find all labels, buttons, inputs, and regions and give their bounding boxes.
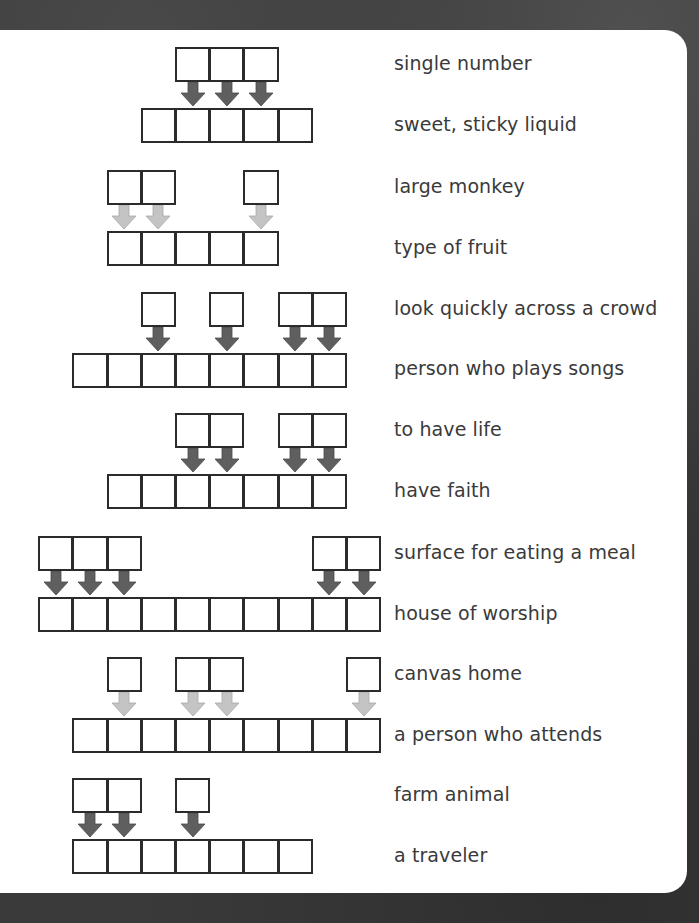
- short-word-letter-box[interactable]: [312, 292, 347, 327]
- short-word-letter-box[interactable]: [141, 292, 176, 327]
- long-word-clue: type of fruit: [394, 236, 507, 258]
- down-arrow-icon: [283, 448, 307, 472]
- long-word-letter-box[interactable]: [72, 353, 107, 388]
- long-word-letter-box[interactable]: [209, 597, 244, 632]
- short-word-letter-box[interactable]: [209, 292, 244, 327]
- long-word-letter-box[interactable]: [312, 597, 347, 632]
- down-arrow-icon: [283, 327, 307, 351]
- long-word-letter-box[interactable]: [72, 839, 107, 874]
- down-arrow-icon: [181, 692, 205, 716]
- long-word-letter-box[interactable]: [38, 597, 73, 632]
- down-arrow-icon: [181, 813, 205, 837]
- long-word-letter-box[interactable]: [175, 718, 210, 753]
- short-word-letter-box[interactable]: [175, 413, 210, 448]
- long-word-letter-box[interactable]: [278, 718, 313, 753]
- long-word-letter-box[interactable]: [141, 597, 176, 632]
- long-word-letter-box[interactable]: [278, 474, 313, 509]
- long-word-letter-box[interactable]: [243, 353, 278, 388]
- down-arrow-icon: [181, 82, 205, 106]
- short-word-clue: large monkey: [394, 175, 525, 197]
- long-word-letter-box[interactable]: [141, 474, 176, 509]
- short-word-letter-box[interactable]: [278, 292, 313, 327]
- short-word-letter-box[interactable]: [141, 170, 176, 205]
- long-word-letter-box[interactable]: [243, 839, 278, 874]
- long-word-letter-box[interactable]: [209, 108, 244, 143]
- long-word-letter-box[interactable]: [312, 718, 347, 753]
- short-word-letter-box[interactable]: [72, 778, 107, 813]
- long-word-letter-box[interactable]: [107, 597, 142, 632]
- long-word-letter-box[interactable]: [107, 231, 142, 266]
- long-word-letter-box[interactable]: [175, 839, 210, 874]
- long-word-letter-box[interactable]: [72, 718, 107, 753]
- short-word-letter-box[interactable]: [209, 47, 244, 82]
- short-word-letter-box[interactable]: [175, 47, 210, 82]
- down-arrow-icon: [112, 571, 136, 595]
- long-word-letter-box[interactable]: [175, 353, 210, 388]
- short-word-letter-box[interactable]: [312, 413, 347, 448]
- long-word-letter-box[interactable]: [107, 718, 142, 753]
- down-arrow-icon: [317, 327, 341, 351]
- long-word-letter-box[interactable]: [175, 474, 210, 509]
- long-word-clue: person who plays songs: [394, 357, 624, 379]
- long-word-letter-box[interactable]: [175, 108, 210, 143]
- short-word-letter-box[interactable]: [278, 413, 313, 448]
- down-arrow-icon: [215, 448, 239, 472]
- long-word-letter-box[interactable]: [209, 353, 244, 388]
- long-word-letter-box[interactable]: [243, 474, 278, 509]
- short-word-letter-box[interactable]: [107, 778, 142, 813]
- short-word-letter-box[interactable]: [243, 170, 278, 205]
- long-word-letter-box[interactable]: [278, 108, 313, 143]
- long-word-letter-box[interactable]: [107, 839, 142, 874]
- down-arrow-icon: [317, 571, 341, 595]
- short-word-clue: single number: [394, 52, 532, 74]
- long-word-letter-box[interactable]: [278, 597, 313, 632]
- short-word-clue: surface for eating a meal: [394, 541, 636, 563]
- short-word-letter-box[interactable]: [72, 536, 107, 571]
- short-word-letter-box[interactable]: [209, 657, 244, 692]
- long-word-letter-box[interactable]: [209, 474, 244, 509]
- long-word-letter-box[interactable]: [175, 231, 210, 266]
- long-word-letter-box[interactable]: [107, 474, 142, 509]
- long-word-clue: have faith: [394, 479, 491, 501]
- long-word-letter-box[interactable]: [278, 839, 313, 874]
- down-arrow-icon: [215, 327, 239, 351]
- long-word-clue: a traveler: [394, 844, 487, 866]
- short-word-letter-box[interactable]: [38, 536, 73, 571]
- long-word-letter-box[interactable]: [312, 474, 347, 509]
- down-arrow-icon: [44, 571, 68, 595]
- short-word-clue: look quickly across a crowd: [394, 297, 657, 319]
- short-word-letter-box[interactable]: [209, 413, 244, 448]
- word-puzzle-area: single numbersweet, sticky liquidlarge m…: [0, 0, 699, 923]
- long-word-letter-box[interactable]: [107, 353, 142, 388]
- long-word-letter-box[interactable]: [209, 231, 244, 266]
- long-word-clue: a person who attends: [394, 723, 602, 745]
- short-word-letter-box[interactable]: [175, 778, 210, 813]
- long-word-letter-box[interactable]: [141, 108, 176, 143]
- long-word-letter-box[interactable]: [175, 597, 210, 632]
- long-word-letter-box[interactable]: [209, 839, 244, 874]
- long-word-letter-box[interactable]: [209, 718, 244, 753]
- long-word-letter-box[interactable]: [346, 718, 381, 753]
- short-word-letter-box[interactable]: [107, 170, 142, 205]
- short-word-letter-box[interactable]: [175, 657, 210, 692]
- long-word-letter-box[interactable]: [243, 718, 278, 753]
- long-word-letter-box[interactable]: [278, 353, 313, 388]
- long-word-letter-box[interactable]: [141, 718, 176, 753]
- long-word-letter-box[interactable]: [72, 597, 107, 632]
- long-word-letter-box[interactable]: [346, 597, 381, 632]
- long-word-letter-box[interactable]: [243, 597, 278, 632]
- short-word-letter-box[interactable]: [243, 47, 278, 82]
- long-word-letter-box[interactable]: [243, 231, 278, 266]
- long-word-clue: sweet, sticky liquid: [394, 113, 577, 135]
- short-word-letter-box[interactable]: [346, 536, 381, 571]
- short-word-letter-box[interactable]: [107, 536, 142, 571]
- long-word-letter-box[interactable]: [243, 108, 278, 143]
- long-word-letter-box[interactable]: [141, 231, 176, 266]
- short-word-letter-box[interactable]: [312, 536, 347, 571]
- down-arrow-icon: [317, 448, 341, 472]
- long-word-letter-box[interactable]: [141, 839, 176, 874]
- long-word-letter-box[interactable]: [141, 353, 176, 388]
- long-word-letter-box[interactable]: [312, 353, 347, 388]
- short-word-letter-box[interactable]: [107, 657, 142, 692]
- short-word-letter-box[interactable]: [346, 657, 381, 692]
